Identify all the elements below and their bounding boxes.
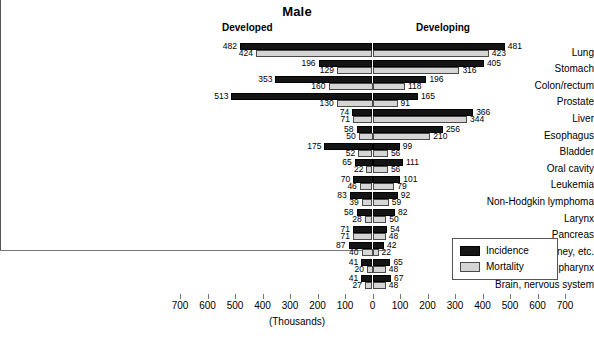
category-label: Non-Hodgkin lymphoma (418, 196, 594, 207)
x-axis-tick (263, 294, 264, 299)
x-axis-tick (318, 294, 319, 299)
x-axis-tick (455, 294, 456, 299)
bar-mortality-left (337, 67, 372, 74)
x-axis-tick (345, 294, 346, 299)
diverging-bar-chart: Male Developed Developing LungStomachCol… (0, 0, 594, 346)
x-axis-tick (208, 294, 209, 299)
bar-value-label: 160 (285, 82, 326, 91)
bar-mortality-left (362, 249, 373, 256)
bar-incidence-left (352, 109, 372, 116)
legend-swatch-mortality (460, 262, 480, 272)
legend-label-mortality: Mortality (486, 261, 524, 272)
bar-mortality-left (337, 100, 373, 107)
bar-mortality-right (373, 83, 405, 90)
legend: Incidence Mortality (452, 238, 558, 280)
x-axis-tick (483, 294, 484, 299)
bar-incidence-right (373, 43, 505, 50)
x-axis-tick (428, 294, 429, 299)
x-axis-tick (565, 294, 566, 299)
bar-value-label: 210 (433, 132, 474, 141)
bar-value-label: 50 (389, 215, 430, 224)
bar-value-label: 22 (322, 165, 363, 174)
bar-mortality-left (256, 50, 373, 57)
x-axis-caption: (Thousands) (0, 316, 594, 327)
bar-mortality-right (373, 100, 398, 107)
x-axis-tick (373, 294, 374, 299)
bar-mortality-right (373, 183, 395, 190)
center-axis-line (0, 0, 1, 250)
bar-incidence-left (240, 43, 373, 50)
bar-mortality-right (373, 233, 386, 240)
bar-value-label: 50 (315, 132, 356, 141)
bar-incidence-right (373, 226, 388, 233)
x-axis-tick (180, 294, 181, 299)
category-label: Bladder (418, 146, 594, 157)
x-axis-tick-label: 700 (545, 300, 585, 311)
bar-value-label: 130 (293, 99, 334, 108)
bar-value-label: 40 (318, 248, 359, 257)
bar-mortality-left (365, 216, 373, 223)
bar-value-label: 118 (408, 82, 449, 91)
bar-value-label: 344 (470, 115, 511, 124)
category-label: Larynx (418, 213, 594, 224)
x-axis-tick (235, 294, 236, 299)
bar-incidence-left (353, 226, 373, 233)
bar-mortality-left (365, 282, 372, 289)
bar-mortality-right (373, 249, 379, 256)
category-label: Brain, nervous system (418, 279, 594, 290)
bar-value-label: 316 (462, 66, 503, 75)
bar-incidence-left (361, 275, 372, 282)
bar-mortality-right (373, 150, 388, 157)
bar-value-label: 424 (212, 49, 253, 58)
bar-mortality-left (353, 116, 373, 123)
bar-mortality-right (373, 199, 389, 206)
bar-mortality-left (358, 150, 372, 157)
x-axis-tick (510, 294, 511, 299)
bar-mortality-right (373, 266, 386, 273)
bar-mortality-right (373, 216, 387, 223)
bar-value-label: 22 (382, 248, 423, 257)
bar-value-label: 48 (389, 281, 430, 290)
bar-mortality-left (360, 183, 373, 190)
bar-mortality-right (373, 67, 460, 74)
bar-value-label: 353 (231, 75, 272, 84)
bar-mortality-right (373, 282, 386, 289)
bar-incidence-right (373, 109, 474, 116)
bar-mortality-right (373, 166, 388, 173)
bar-mortality-left (359, 133, 373, 140)
bar-mortality-left (362, 199, 373, 206)
bar-value-label: 513 (187, 92, 228, 101)
bar-incidence-right (373, 176, 401, 183)
category-label: Leukemia (418, 179, 594, 190)
bar-value-label: 27 (321, 281, 362, 290)
bar-mortality-right (373, 50, 489, 57)
bar-value-label: 56 (391, 165, 432, 174)
bar-incidence-left (357, 126, 373, 133)
x-axis-tick (400, 294, 401, 299)
bar-mortality-left (353, 233, 373, 240)
bar-mortality-right (373, 133, 431, 140)
legend-swatch-incidence (460, 246, 480, 256)
x-axis-tick (538, 294, 539, 299)
bar-mortality-right (373, 116, 468, 123)
bar-value-label: 423 (492, 49, 533, 58)
bar-value-label: 91 (401, 99, 442, 108)
x-axis-tick (290, 294, 291, 299)
bar-value-label: 129 (293, 66, 334, 75)
bar-incidence-right (373, 259, 391, 266)
bar-mortality-left (329, 83, 373, 90)
legend-label-incidence: Incidence (486, 245, 529, 256)
bar-value-label: 28 (321, 215, 362, 224)
